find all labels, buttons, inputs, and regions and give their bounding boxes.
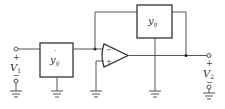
output-terminal-minus [207,85,211,89]
ground-icon [149,91,161,97]
circuit-diagram: + V1 − yij′ yij − + + V2 [0,0,225,109]
input-terminal-plus [14,47,18,51]
input-terminal-minus [14,79,18,83]
ground-icon [90,91,102,97]
opamp-noninverting-sign: + [106,58,112,66]
output-plus-sign: + [206,59,213,68]
ground-icon [51,91,63,97]
junction-dot [185,54,188,57]
input-plus-sign: + [13,53,20,62]
ground-icon [203,89,215,99]
ground-icon [10,83,22,97]
output-terminal-plus [207,54,211,58]
opamp-inverting-sign: − [106,46,112,54]
